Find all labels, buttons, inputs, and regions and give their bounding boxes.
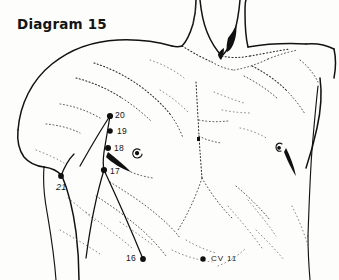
point-label-19: 19: [117, 126, 127, 136]
left-nipple: [133, 149, 142, 158]
page-title: Diagram 15: [17, 16, 107, 32]
shoulder-and-pectoral-contours: [46, 60, 318, 138]
point-label-18: 18: [114, 143, 124, 153]
point-label-cv11: CV 11: [211, 254, 237, 263]
right-nipple: [276, 143, 296, 176]
point-label-20: 20: [115, 110, 125, 120]
point-label-21: 21: [56, 182, 67, 192]
point-dots: [58, 113, 206, 262]
point-label-17: 17: [110, 166, 120, 176]
point-connector-lines: [61, 116, 153, 259]
point-label-16: 16: [126, 253, 136, 263]
diagram-page: .ol{fill:none;stroke:#121212;stroke-widt…: [0, 0, 339, 280]
anatomy-illustration: .ol{fill:none;stroke:#121212;stroke-widt…: [0, 0, 339, 280]
sternum-midline: [178, 82, 232, 230]
neck-and-clavicle: [182, 0, 298, 70]
